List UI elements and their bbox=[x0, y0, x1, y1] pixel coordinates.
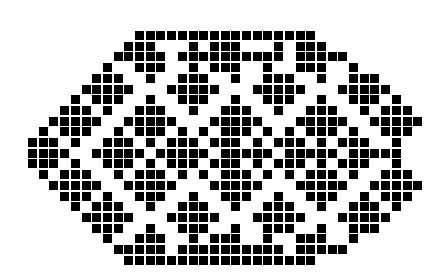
pattern-cell bbox=[60, 170, 69, 179]
pattern-cell bbox=[146, 42, 155, 51]
pattern-cell bbox=[199, 74, 208, 83]
pattern-cell bbox=[221, 149, 230, 158]
pattern-cell bbox=[263, 31, 272, 40]
pattern-cell bbox=[317, 138, 326, 147]
pattern-cell bbox=[296, 138, 305, 147]
pattern-cell bbox=[103, 192, 112, 201]
pattern-cell bbox=[82, 106, 91, 115]
pattern-cell bbox=[135, 42, 144, 51]
pattern-cell bbox=[349, 85, 358, 94]
pattern-cell bbox=[285, 74, 294, 83]
pattern-cell bbox=[135, 234, 144, 243]
pattern-cell bbox=[392, 117, 401, 126]
pattern-cell bbox=[199, 202, 208, 211]
pattern-cell bbox=[317, 170, 326, 179]
pattern-cell bbox=[39, 127, 48, 136]
pattern-cell bbox=[167, 181, 176, 190]
pattern-cell bbox=[242, 106, 251, 115]
pattern-cell bbox=[178, 127, 187, 136]
pattern-cell bbox=[403, 170, 412, 179]
pattern-cell bbox=[71, 202, 80, 211]
pattern-cell bbox=[221, 117, 230, 126]
pattern-cell bbox=[306, 192, 315, 201]
pattern-cell bbox=[189, 159, 198, 168]
pattern-cell bbox=[370, 117, 379, 126]
pattern-cell bbox=[296, 117, 305, 126]
pattern-cell bbox=[135, 52, 144, 61]
pattern-cell bbox=[317, 181, 326, 190]
pattern-cell bbox=[349, 234, 358, 243]
pattern-cell bbox=[349, 202, 358, 211]
pattern-cell bbox=[349, 138, 358, 147]
pattern-cell bbox=[103, 224, 112, 233]
pattern-cell bbox=[210, 256, 219, 265]
pattern-cell bbox=[231, 95, 240, 104]
pattern-cell bbox=[167, 138, 176, 147]
pattern-cell bbox=[403, 181, 412, 190]
pattern-cell bbox=[413, 181, 422, 190]
pattern-cell bbox=[349, 74, 358, 83]
pattern-cell bbox=[306, 117, 315, 126]
pattern-cell bbox=[199, 31, 208, 40]
pattern-cell bbox=[189, 74, 198, 83]
pattern-cell bbox=[178, 256, 187, 265]
pattern-cell bbox=[296, 256, 305, 265]
pattern-cell bbox=[231, 159, 240, 168]
pattern-cell bbox=[156, 31, 165, 40]
pattern-cell bbox=[317, 202, 326, 211]
pattern-cell bbox=[103, 234, 112, 243]
pattern-cell bbox=[114, 170, 123, 179]
pattern-cell bbox=[381, 213, 390, 222]
pattern-cell bbox=[274, 106, 283, 115]
pattern-cell bbox=[263, 256, 272, 265]
pattern-cell bbox=[349, 95, 358, 104]
pattern-cell bbox=[242, 181, 251, 190]
pattern-cell bbox=[92, 74, 101, 83]
pattern-cell bbox=[317, 245, 326, 254]
pattern-cell bbox=[210, 42, 219, 51]
pattern-cell bbox=[210, 52, 219, 61]
pattern-cell bbox=[210, 31, 219, 40]
pattern-cell bbox=[114, 138, 123, 147]
pattern-cell bbox=[103, 159, 112, 168]
pattern-cell bbox=[381, 85, 390, 94]
pattern-cell bbox=[221, 106, 230, 115]
pattern-cell bbox=[114, 202, 123, 211]
pattern-cell bbox=[221, 234, 230, 243]
pattern-cell bbox=[349, 149, 358, 158]
pattern-cell bbox=[135, 63, 144, 72]
pattern-cell bbox=[135, 149, 144, 158]
pattern-cell bbox=[338, 213, 347, 222]
pattern-cell bbox=[392, 181, 401, 190]
pattern-cell bbox=[285, 224, 294, 233]
pattern-cell bbox=[306, 170, 315, 179]
pattern-cell bbox=[146, 224, 155, 233]
pattern-cell bbox=[360, 149, 369, 158]
pattern-cell bbox=[317, 224, 326, 233]
pattern-cell bbox=[392, 106, 401, 115]
pattern-cell bbox=[370, 213, 379, 222]
pattern-cell bbox=[317, 106, 326, 115]
pattern-cell bbox=[338, 138, 347, 147]
pattern-cell bbox=[178, 149, 187, 158]
pattern-cell bbox=[92, 85, 101, 94]
pattern-cell bbox=[156, 256, 165, 265]
pattern-cell bbox=[114, 85, 123, 94]
pattern-cell bbox=[189, 202, 198, 211]
pattern-cell bbox=[306, 52, 315, 61]
pattern-cell bbox=[146, 117, 155, 126]
pattern-cell bbox=[263, 95, 272, 104]
pattern-cell bbox=[39, 159, 48, 168]
pattern-cell bbox=[403, 106, 412, 115]
pattern-cell bbox=[296, 149, 305, 158]
pattern-cell bbox=[146, 234, 155, 243]
pattern-cell bbox=[296, 213, 305, 222]
pattern-cell bbox=[370, 202, 379, 211]
pattern-cell bbox=[306, 234, 315, 243]
pattern-cell bbox=[124, 117, 133, 126]
pattern-cell bbox=[28, 149, 37, 158]
pattern-cell bbox=[92, 149, 101, 158]
pattern-cell bbox=[349, 170, 358, 179]
pattern-cell bbox=[328, 127, 337, 136]
pattern-cell bbox=[103, 63, 112, 72]
